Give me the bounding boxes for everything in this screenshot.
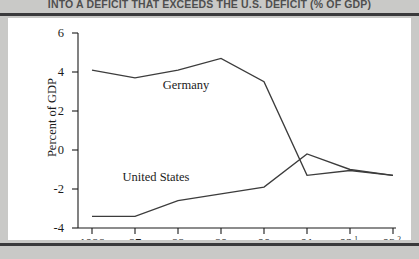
series-label-germany: Germany [163,78,210,92]
y-tick-label-2: 2 [58,104,64,118]
chart-title: INTO A DEFICIT THAT EXCEEDS THE U.S. DEF… [0,0,419,10]
x-tick-superscript-93: 2 [397,235,401,240]
divider-top [0,13,419,16]
x-tick-label-90: 90 [258,236,271,240]
y-tick-label-6: 6 [58,26,64,40]
series-line-germany [92,58,393,175]
x-ticks [92,228,393,234]
series-label-united-states: United States [122,170,189,184]
y-tick-label-4: 4 [58,65,65,79]
series-line-united-states [92,154,393,216]
plot-card: Percent of GDP 6 4 2 0 -2 -4 [8,18,411,240]
x-tick-superscript-92: 1 [354,235,358,240]
divider-bottom [0,243,419,246]
y-tick-label-neg2: -2 [54,182,64,196]
y-ticks [72,33,78,228]
chart-figure: INTO A DEFICIT THAT EXCEEDS THE U.S. DEF… [0,0,419,259]
x-tick-label-91: 91 [301,236,314,240]
x-tick-label-93: 93 [383,236,396,240]
x-tick-label-87: 87 [129,236,142,240]
x-tick-label-89: 89 [215,236,228,240]
x-tick-label-1986: 1986 [80,236,105,240]
x-tick-label-92: 92 [340,236,353,240]
y-tick-label-0: 0 [58,143,64,157]
plot-area: 6 4 2 0 -2 -4 1986 87 88 89 90 9 [8,18,411,240]
title-band: INTO A DEFICIT THAT EXCEEDS THE U.S. DEF… [0,0,419,13]
y-tick-label-neg4: -4 [54,221,65,235]
x-tick-label-88: 88 [172,236,185,240]
